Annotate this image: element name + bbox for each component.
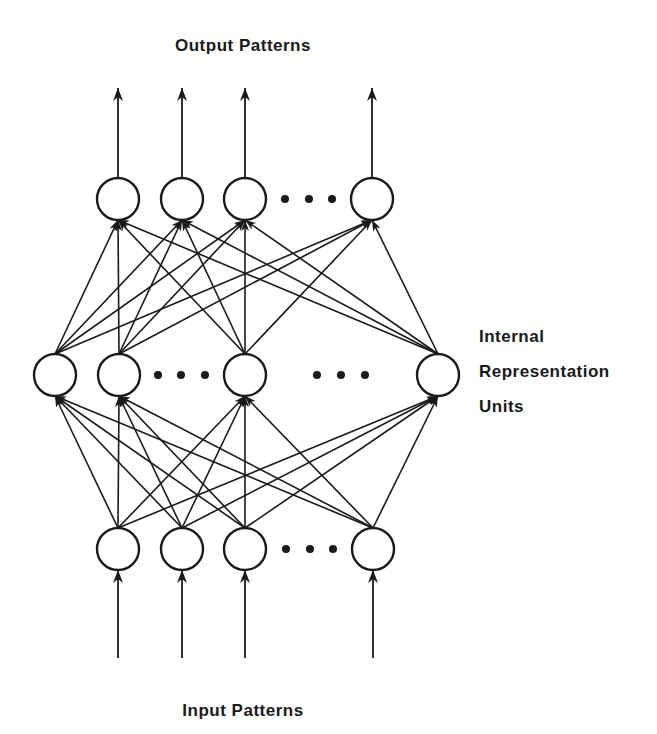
output-patterns-label: Output Patterns bbox=[175, 36, 311, 55]
neural-network-diagram: Output Patterns Internal Representation … bbox=[0, 0, 657, 734]
connection-edge bbox=[55, 396, 373, 528]
ellipsis-dot-icon bbox=[154, 371, 162, 379]
hidden-label-line-3: Units bbox=[479, 397, 524, 416]
ellipsis-dot-icon bbox=[337, 371, 345, 379]
ellipsis-dot-icon bbox=[306, 545, 314, 553]
ellipsis-dot-icon bbox=[282, 545, 290, 553]
hidden-unit-3 bbox=[224, 354, 266, 396]
hidden-unit-4 bbox=[417, 354, 459, 396]
input-patterns-label: Input Patterns bbox=[182, 701, 303, 720]
ellipsis-dot-icon bbox=[177, 371, 185, 379]
connection-edge bbox=[372, 220, 438, 354]
input-arrows bbox=[118, 570, 373, 658]
output-unit-2 bbox=[161, 178, 203, 220]
connection-edge bbox=[118, 396, 438, 528]
connection-edge bbox=[119, 220, 182, 354]
output-unit-4 bbox=[351, 178, 393, 220]
ellipsis-dot-icon bbox=[281, 195, 289, 203]
connection-edge bbox=[245, 396, 438, 528]
hidden-unit-1 bbox=[34, 354, 76, 396]
connection-edge bbox=[119, 396, 373, 528]
output-arrows bbox=[118, 88, 372, 178]
hidden-unit-2 bbox=[98, 354, 140, 396]
connection-edge bbox=[245, 220, 438, 354]
ellipsis-dot-icon bbox=[305, 195, 313, 203]
ellipsis-dot-icon bbox=[329, 545, 337, 553]
connection-edge bbox=[182, 220, 245, 354]
connection-edge bbox=[245, 396, 373, 528]
input-unit-4 bbox=[352, 528, 394, 570]
ellipsis-dot-icon bbox=[328, 195, 336, 203]
hidden-to-output-connections bbox=[55, 220, 438, 354]
hidden-layer-label: Internal Representation Units bbox=[479, 327, 610, 416]
hidden-label-line-2: Representation bbox=[479, 362, 610, 381]
input-to-hidden-connections bbox=[55, 396, 438, 528]
connection-edge bbox=[55, 220, 118, 354]
connection-edge bbox=[55, 396, 245, 528]
connection-edge bbox=[373, 396, 438, 528]
hidden-layer bbox=[34, 354, 459, 396]
hidden-label-line-1: Internal bbox=[479, 327, 544, 346]
ellipsis-dot-icon bbox=[361, 371, 369, 379]
ellipsis-dot-icon bbox=[201, 371, 209, 379]
input-unit-1 bbox=[97, 528, 139, 570]
input-unit-3 bbox=[224, 528, 266, 570]
ellipsis-dot-icon bbox=[313, 371, 321, 379]
output-unit-3 bbox=[224, 178, 266, 220]
input-layer bbox=[97, 528, 394, 570]
connection-edge bbox=[118, 220, 119, 354]
connection-edge bbox=[182, 220, 438, 354]
connection-edge bbox=[118, 220, 438, 354]
connection-edge bbox=[55, 396, 118, 528]
output-layer bbox=[97, 178, 393, 220]
input-unit-2 bbox=[161, 528, 203, 570]
output-unit-1 bbox=[97, 178, 139, 220]
